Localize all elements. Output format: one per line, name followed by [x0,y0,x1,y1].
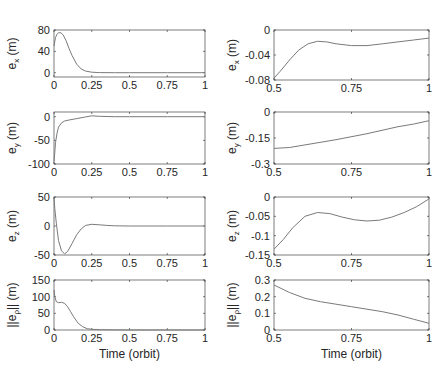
y-tick-label: 100 [32,291,50,303]
x-tick-label: 0.75 [157,332,178,344]
y-tick-label: -100 [28,158,50,170]
subplot-8: 0.50.75100.10.20.3||eρ|| (m)Time (orbit) [225,274,432,361]
x-tick-label: 1 [426,332,432,344]
y-tick-label: 0 [264,324,270,336]
figure-canvas: 00.250.50.75104080ex (m)0.50.751-0.08-0.… [0,0,448,378]
subplot-7: 00.250.50.751050100150||eρ|| (m)Time (or… [5,274,208,361]
y-tick-label: -0.15 [245,132,270,144]
y-tick-label: -50 [34,249,50,261]
x-tick-label: 0.5 [122,166,137,178]
y-axis-label: ||eρ|| (m) [225,282,241,327]
y-tick-label: -0.1 [251,230,270,242]
axes-box [274,30,429,80]
x-tick-label: 0.75 [341,166,362,178]
subplot-1: 00.250.50.75104080ex (m) [5,24,208,91]
x-tick-label: 0.5 [122,79,137,91]
subplot-2: 0.50.751-0.08-0.040ex (m) [225,24,432,94]
y-tick-label: -0.15 [245,249,270,261]
y-axis-label: ey (m) [225,122,241,154]
x-tick-label: 0.75 [341,257,362,269]
x-tick-label: 0.75 [157,79,178,91]
y-tick-label: 40 [38,45,50,57]
y-tick-label: 80 [38,24,50,36]
y-tick-label: -50 [34,134,50,146]
y-axis-label: ey (m) [5,122,21,154]
x-tick-label: 1 [426,257,432,269]
x-tick-label: 0.5 [122,332,137,344]
y-tick-label: 0.2 [255,291,270,303]
y-tick-label: 0 [44,67,50,79]
y-tick-label: 150 [32,274,50,286]
x-tick-label: 0.75 [157,257,178,269]
x-tick-label: 0.75 [157,166,178,178]
x-tick-label: 1 [426,82,432,94]
x-tick-label: 0 [51,332,57,344]
y-tick-label: 0 [264,106,270,118]
x-tick-label: 0 [51,79,57,91]
x-tick-label: 1 [202,166,208,178]
y-tick-label: 0 [44,220,50,232]
x-axis-label: Time (orbit) [99,347,160,361]
x-tick-label: 1 [202,332,208,344]
x-tick-label: 0 [51,166,57,178]
x-tick-label: 1 [426,166,432,178]
x-tick-label: 0.25 [81,166,102,178]
x-tick-label: 0.25 [81,257,102,269]
x-tick-label: 0.75 [341,82,362,94]
y-tick-label: -0.05 [245,210,270,222]
y-tick-label: -0.08 [245,74,270,86]
y-axis-label: ex (m) [5,37,21,69]
axes-box [274,112,429,164]
y-axis-label: ez (m) [5,210,21,242]
y-axis-label: ez (m) [225,210,241,242]
x-tick-label: 0.25 [81,79,102,91]
axes-box [54,30,205,77]
y-tick-label: 0.3 [255,274,270,286]
y-axis-label: ex (m) [225,39,241,71]
y-tick-label: -0.3 [251,158,270,170]
y-tick-label: 0 [264,24,270,36]
y-tick-label: 50 [38,191,50,203]
y-tick-label: 0 [264,191,270,203]
y-tick-label: 0.1 [255,307,270,319]
y-tick-label: 0 [44,111,50,123]
x-tick-label: 0.5 [122,257,137,269]
x-tick-label: 0.25 [81,332,102,344]
axes-box [54,112,205,164]
subplot-4: 0.50.751-0.3-0.150ey (m) [225,106,432,178]
axes-box [54,280,205,330]
y-tick-label: 50 [38,307,50,319]
y-axis-label: ||eρ|| (m) [5,282,21,327]
x-tick-label: 1 [202,257,208,269]
x-tick-label: 1 [202,79,208,91]
subplot-5: 00.250.50.751-50050ez (m) [5,191,208,269]
y-tick-label: 0 [44,324,50,336]
y-tick-label: -0.04 [245,49,270,61]
x-axis-label: Time (orbit) [321,347,382,361]
subplot-6: 0.50.751-0.15-0.1-0.050ez (m) [225,191,432,269]
axes-box [274,280,429,330]
axes-box [274,197,429,255]
x-tick-label: 0 [51,257,57,269]
subplot-3: 00.250.50.751-100-500ey (m) [5,111,208,178]
x-tick-label: 0.75 [341,332,362,344]
